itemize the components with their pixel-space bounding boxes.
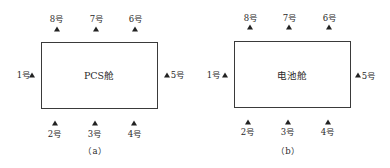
sensor-2-label: 2号 xyxy=(48,129,62,139)
sensor-6-triangle-icon xyxy=(326,25,332,30)
sensor-5-triangle-icon xyxy=(164,73,170,78)
sensor-6-label: 6号 xyxy=(323,13,337,23)
diagram-a: PCS舱 8号 7号 6号 1号 5号 2号 3号 4号 （a） xyxy=(0,0,195,168)
sensor-7-label: 7号 xyxy=(283,13,297,23)
sensor-7-label: 7号 xyxy=(90,14,104,24)
diagram-b: 电池舱 8号 7号 6号 1号 5号 2号 3号 4号 （b） xyxy=(195,0,390,168)
sensor-8-triangle-icon xyxy=(54,27,60,32)
sensor-3-triangle-icon xyxy=(285,120,291,125)
sensor-4-triangle-icon xyxy=(325,120,331,125)
sensor-3-label: 3号 xyxy=(88,129,102,139)
sensor-1-triangle-icon xyxy=(222,73,228,78)
sensor-5-triangle-icon xyxy=(355,73,361,78)
sensor-2-label: 2号 xyxy=(241,127,255,137)
sensor-8-label: 8号 xyxy=(244,13,258,23)
sensor-5-label: 5号 xyxy=(362,71,376,81)
sensor-5-label: 5号 xyxy=(171,70,185,80)
sensor-4-label: 4号 xyxy=(128,129,142,139)
sensor-1-label: 1号 xyxy=(207,70,221,80)
caption-b: （b） xyxy=(276,144,299,156)
sensor-2-triangle-icon xyxy=(245,120,251,125)
sensor-7-triangle-icon xyxy=(93,27,99,32)
sensor-1-triangle-icon xyxy=(29,73,35,78)
cabin-label: 电池舱 xyxy=(277,68,307,82)
sensor-6-label: 6号 xyxy=(129,14,143,24)
sensor-6-triangle-icon xyxy=(132,27,138,32)
sensor-8-triangle-icon xyxy=(247,25,253,30)
sensor-4-label: 4号 xyxy=(321,127,335,137)
sensor-4-triangle-icon xyxy=(131,121,137,126)
cabin-label: PCS舱 xyxy=(84,68,114,82)
caption-a: （a） xyxy=(83,144,106,156)
sensor-7-triangle-icon xyxy=(286,25,292,30)
sensor-2-triangle-icon xyxy=(52,121,58,126)
sensor-8-label: 8号 xyxy=(50,14,64,24)
sensor-3-triangle-icon xyxy=(92,121,98,126)
sensor-3-label: 3号 xyxy=(281,127,295,137)
